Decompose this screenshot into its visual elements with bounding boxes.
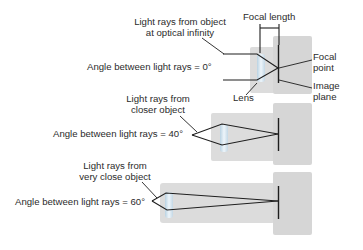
lens-label: Lens — [233, 92, 254, 103]
focal-point-line-2: point — [313, 62, 336, 73]
source-label-line-1: Light rays from — [118, 93, 198, 104]
focal-length-label: Focal length — [243, 11, 295, 22]
angle-label-infinity: Angle between light rays = 0° — [87, 61, 212, 72]
image-plane-line-1: Image — [313, 80, 340, 91]
source-label-line-1: Light rays from object — [128, 16, 232, 27]
image-plane-line-2: plane — [313, 91, 340, 102]
image-plane-label: Image plane — [313, 80, 340, 102]
panel-closer — [180, 103, 312, 165]
source-label-closer: Light rays from closer object — [118, 93, 198, 115]
pointer-source-infinity — [202, 38, 224, 54]
source-label-very-close: Light rays from very close object — [70, 160, 160, 182]
angle-label-closer: Angle between light rays = 40° — [53, 128, 183, 139]
focal-point-line-1: Focal — [313, 51, 336, 62]
panel-very-close — [142, 172, 312, 235]
source-label-infinity: Light rays from object at optical infini… — [128, 16, 232, 38]
source-label-line-2: closer object — [118, 104, 198, 115]
source-label-line-1: Light rays from — [70, 160, 160, 171]
source-label-line-2: at optical infinity — [128, 27, 232, 38]
lens-icon — [165, 192, 173, 218]
focal-point-label: Focal point — [313, 51, 336, 73]
angle-label-very-close: Angle between light rays = 60° — [15, 196, 145, 207]
source-label-line-2: very close object — [70, 171, 160, 182]
lens-icon — [220, 124, 228, 152]
